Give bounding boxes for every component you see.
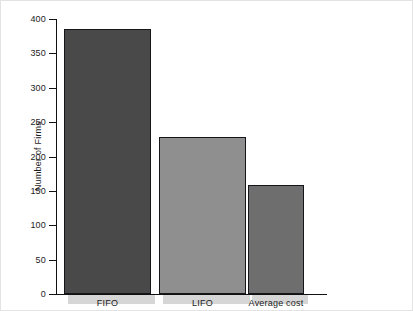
- y-tick-label: 0: [41, 289, 46, 299]
- plot-area: 050100150200250300350400: [56, 19, 326, 294]
- y-tick-mark: [49, 19, 56, 20]
- bar: [248, 185, 304, 294]
- y-tick-label: 300: [30, 83, 46, 93]
- y-tick-label: 50: [36, 255, 46, 265]
- y-tick-mark: [49, 260, 56, 261]
- y-tick-mark: [49, 191, 56, 192]
- bar-chart-figure: Number of Firms 050100150200250300350400…: [0, 0, 413, 311]
- y-tick-label: 150: [30, 186, 46, 196]
- bar: [159, 137, 246, 294]
- y-tick-label: 200: [30, 152, 46, 162]
- y-tick-label: 400: [30, 14, 46, 24]
- x-category-label: Average cost: [232, 298, 320, 308]
- y-tick-mark: [49, 53, 56, 54]
- y-tick-label: 250: [30, 117, 46, 127]
- y-tick-mark: [49, 157, 56, 158]
- y-tick-mark: [49, 294, 56, 295]
- y-tick-mark: [49, 88, 56, 89]
- y-tick-label: 350: [30, 48, 46, 58]
- bar: [64, 29, 151, 294]
- y-tick-mark: [49, 122, 56, 123]
- y-tick-mark: [49, 225, 56, 226]
- y-tick-label: 100: [30, 220, 46, 230]
